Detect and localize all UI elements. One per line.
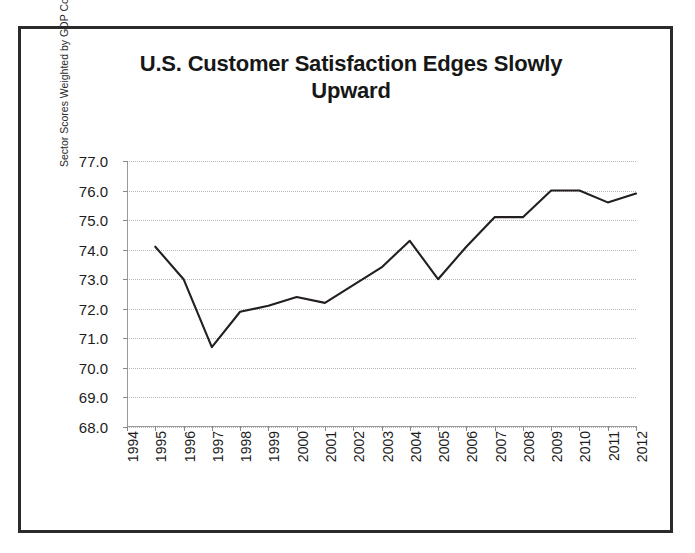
figure-frame: U.S. Customer Satisfaction Edges Slowly … bbox=[18, 26, 673, 533]
x-tick-label: 1996 bbox=[182, 431, 198, 462]
y-tick-label: 71.0 bbox=[64, 330, 108, 347]
y-tick-label: 68.0 bbox=[64, 419, 108, 436]
x-tick-label: 2005 bbox=[436, 431, 452, 462]
y-tick-label: 76.0 bbox=[64, 182, 108, 199]
x-axis-tick-labels: 1994199519961997199819992000200120022003… bbox=[127, 427, 636, 497]
chart-page: U.S. Customer Satisfaction Edges Slowly … bbox=[0, 0, 695, 553]
y-axis-tick-labels: 77.076.075.074.073.072.071.070.069.068.0 bbox=[64, 29, 108, 530]
x-tick-label: 1995 bbox=[153, 431, 169, 462]
x-tick-label: 2006 bbox=[464, 431, 480, 462]
x-tick-label: 2010 bbox=[577, 431, 593, 462]
y-tick-label: 74.0 bbox=[64, 241, 108, 258]
y-tick-label: 69.0 bbox=[64, 389, 108, 406]
x-tick-label: 2000 bbox=[295, 431, 311, 462]
y-tick-label: 70.0 bbox=[64, 359, 108, 376]
x-tick-label: 1999 bbox=[266, 431, 282, 462]
x-tick-label: 1994 bbox=[125, 431, 141, 462]
y-tick-label: 72.0 bbox=[64, 300, 108, 317]
x-tick-label: 2001 bbox=[323, 431, 339, 462]
x-tick-label: 2008 bbox=[521, 431, 537, 462]
x-tick-label: 2007 bbox=[493, 431, 509, 462]
x-tick-label: 2002 bbox=[351, 431, 367, 462]
x-tick-label: 1998 bbox=[238, 431, 254, 462]
x-tick-label: 2009 bbox=[549, 431, 565, 462]
plot-wrapper: Sector Scores Weighted by GDP Contributi… bbox=[21, 29, 670, 530]
y-tick-label: 73.0 bbox=[64, 271, 108, 288]
data-series-line bbox=[127, 161, 636, 427]
x-tick-label: 2011 bbox=[606, 431, 622, 461]
y-tick-label: 77.0 bbox=[64, 153, 108, 170]
plot-area bbox=[127, 161, 636, 427]
x-tick-label: 2003 bbox=[380, 431, 396, 462]
y-tick-label: 75.0 bbox=[64, 212, 108, 229]
x-tick-label: 2012 bbox=[634, 431, 650, 462]
x-tick-label: 2004 bbox=[408, 431, 424, 462]
x-tick-label: 1997 bbox=[210, 431, 226, 462]
